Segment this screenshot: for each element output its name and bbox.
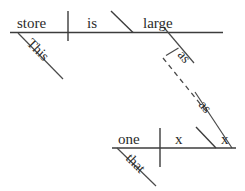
word-this: This xyxy=(24,36,52,64)
word-large: large xyxy=(143,15,173,31)
sentence-diagram-svg: store is large This as as one x x that xyxy=(0,0,245,191)
predicate-adjective-slant xyxy=(111,11,133,33)
word-as-lower: as xyxy=(196,97,215,116)
word-is: is xyxy=(87,15,97,31)
word-x-complement: x xyxy=(221,131,229,147)
word-that: that xyxy=(123,151,149,177)
word-x-verb: x xyxy=(175,131,183,147)
subordinate-complement-slant xyxy=(196,127,216,148)
sentence-diagram-canvas: store is large This as as one x x that xyxy=(0,0,245,191)
word-as-upper: as xyxy=(175,47,194,66)
word-one: one xyxy=(118,131,140,147)
word-store: store xyxy=(17,15,47,31)
